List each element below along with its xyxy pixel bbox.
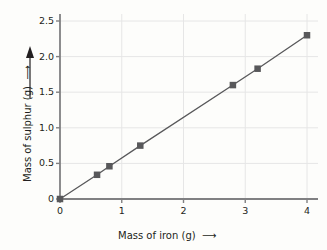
- data-point-marker-3: [137, 142, 144, 149]
- x-tick-label: 0: [50, 205, 70, 216]
- y-tick-label: 2.5: [26, 15, 54, 26]
- y-tick-label: 0: [26, 193, 54, 204]
- x-tick-label: 1: [112, 205, 132, 216]
- x-axis-title: Mass of iron (g) ⟶: [118, 230, 216, 241]
- x-axis-title-text: Mass of iron (g): [118, 230, 196, 241]
- y-axis-arrow-icon: ⟶: [22, 65, 33, 83]
- x-tick-label: 4: [297, 205, 317, 216]
- y-axis-title-text: Mass of sulphur (g): [22, 86, 33, 182]
- data-point-marker-2: [106, 163, 113, 170]
- x-axis-arrow-icon: ⟶: [199, 230, 217, 241]
- chart-container: 00.51.01.52.02.5 01234 Mass of iron (g) …: [0, 0, 327, 250]
- y-axis-title: Mass of sulphur (g) ⟶: [22, 65, 33, 182]
- data-point-marker-1: [94, 172, 101, 179]
- axes-group: [60, 14, 318, 199]
- tick-marks-group: [56, 21, 307, 203]
- gridlines-group: [60, 14, 318, 199]
- x-tick-label: 2: [174, 205, 194, 216]
- data-point-marker-0: [57, 196, 64, 203]
- x-tick-label: 3: [235, 205, 255, 216]
- data-point-marker-6: [304, 32, 311, 38]
- y-tick-label: 2.0: [26, 51, 54, 62]
- data-point-marker-5: [254, 65, 261, 72]
- data-point-marker-4: [230, 82, 237, 89]
